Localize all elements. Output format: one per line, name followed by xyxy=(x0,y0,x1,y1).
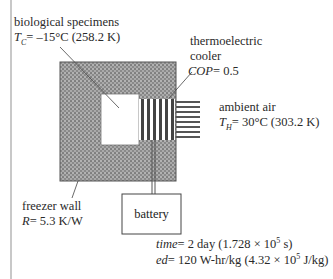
ambient-temp-symbol: T xyxy=(219,115,226,129)
time-symbol: time xyxy=(156,237,178,251)
ambient-temp-value: = 30°C (303.2 K) xyxy=(232,115,320,129)
ambient-title: ambient air xyxy=(219,100,276,115)
cooler-title-line1: thermoelectric xyxy=(190,34,262,49)
battery-label: battery xyxy=(122,194,181,234)
specimens-temperature: TC= –15°C (258.2 K) xyxy=(14,30,120,45)
thermoelectric-cooler xyxy=(139,99,175,140)
specimens-title: biological specimens xyxy=(14,15,119,30)
cop-symbol: COP xyxy=(188,64,213,78)
specimens-temp-symbol: T xyxy=(14,30,21,44)
wall-leader-line xyxy=(72,181,78,198)
ed-symbol: ed xyxy=(156,253,168,267)
wall-resistance-symbol: R xyxy=(22,214,30,228)
ed-unit: J/kg) xyxy=(300,253,328,267)
time-unit: s) xyxy=(280,237,292,251)
ed-value: = 120 W-hr/kg (4.32 × 10 xyxy=(168,253,296,267)
wall-resistance: R= 5.3 K/W xyxy=(22,214,83,229)
ambient-temperature: TH= 30°C (303.2 K) xyxy=(219,115,319,130)
specimens-temp-value: = –15°C (258.2 K) xyxy=(26,30,120,44)
specimen-cavity xyxy=(101,94,139,145)
wall-title: freezer wall xyxy=(22,199,81,214)
cooler-title-line2: cooler xyxy=(190,49,221,64)
time-value: = 2 day (1.728 × 10 xyxy=(178,237,277,251)
time-spec: time= 2 day (1.728 × 105 s) xyxy=(156,237,293,252)
wall-resistance-value: = 5.3 K/W xyxy=(30,214,83,228)
energy-density-spec: ed= 120 W-hr/kg (4.32 × 105 J/kg) xyxy=(156,253,328,268)
heat-sink-fins xyxy=(176,101,200,138)
cop-value: = 0.5 xyxy=(213,64,239,78)
cooler-cop: COP= 0.5 xyxy=(188,64,239,79)
